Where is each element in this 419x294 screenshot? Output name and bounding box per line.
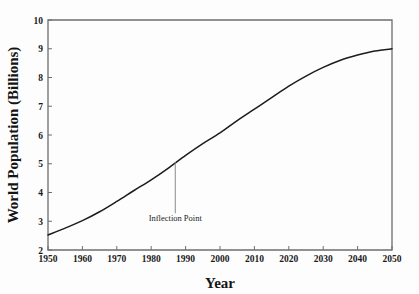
y-tick-label: 5 <box>38 159 43 169</box>
y-tick-label: 7 <box>38 102 43 112</box>
x-tick-label: 1990 <box>176 254 195 264</box>
x-tick-label: 1950 <box>39 254 58 264</box>
y-tick-label: 2 <box>38 246 43 256</box>
x-tick-label: 1980 <box>142 254 161 264</box>
x-tick-label: 2020 <box>279 254 298 264</box>
x-tick-label: 2010 <box>245 254 264 264</box>
x-tick-label: 1960 <box>73 254 92 264</box>
y-axis-title: World Population (Billions) <box>5 47 22 224</box>
x-axis-title: Year <box>205 275 235 291</box>
x-tick-label: 2030 <box>314 254 333 264</box>
x-tick-label: 1970 <box>107 254 126 264</box>
inflection-point-annotation: Inflection Point <box>149 213 203 223</box>
y-tick-label: 4 <box>38 188 43 198</box>
y-tick-label: 9 <box>38 44 43 54</box>
y-tick-label: 10 <box>34 16 44 26</box>
x-tick-label: 2000 <box>211 254 230 264</box>
x-tick-label: 2050 <box>383 254 402 264</box>
population-line-chart: 1950196019701980199020002010202020302040… <box>0 0 419 294</box>
chart-figure: 1950196019701980199020002010202020302040… <box>0 0 419 294</box>
y-tick-label: 3 <box>38 217 43 227</box>
y-tick-label: 8 <box>38 73 43 83</box>
x-tick-label: 2040 <box>348 254 367 264</box>
y-tick-label: 6 <box>38 131 43 141</box>
